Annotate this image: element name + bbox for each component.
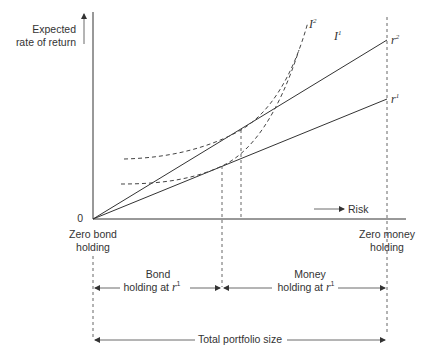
total-portfolio-label: Total portfolio size [198,333,282,345]
money-holding-label-line2: holding at r1 [277,280,334,294]
curve-I2 [124,22,308,159]
zero-money-label-line2: holding [370,241,404,253]
curve-I1 [121,50,299,184]
y-axis-label-line2: rate of return [16,36,76,48]
line-r1 [93,99,387,219]
y-axis-label-line1: Expected [32,23,76,35]
bond-holding-label-line1: Bond [146,268,171,280]
label-r2: r2 [391,33,400,47]
zero-bond-label-line2: holding [76,241,110,253]
zero-bond-label-line1: Zero bond [69,228,117,240]
label-I2: I2 [308,17,317,31]
origin-label: 0 [77,212,83,224]
money-holding-label-line1: Money [294,268,326,280]
line-r2 [93,40,387,219]
x-axis-label: Risk [348,203,369,215]
label-I1: I1 [333,29,342,43]
bond-holding-label-line2: holding at r1 [123,280,180,294]
label-r1: r1 [391,92,399,106]
zero-money-label-line1: Zero money [359,228,416,240]
portfolio-diagram: Expected rate of return 0 Risk r2 r1 I2 … [0,0,427,363]
